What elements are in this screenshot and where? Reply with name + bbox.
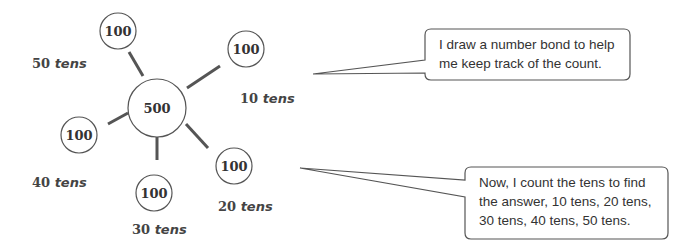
callout-text-1: I draw a number bond to help me keep tra… bbox=[439, 35, 615, 73]
callout-1-line-1: I draw a number bond to help bbox=[439, 35, 615, 54]
label-10-tens-number: 10 bbox=[240, 91, 258, 106]
callout-2-line-1: Now, I count the tens to find bbox=[479, 173, 652, 192]
label-40-tens-unit: tens bbox=[55, 175, 87, 190]
label-50-tens-number: 50 bbox=[32, 56, 50, 71]
bond-line-left bbox=[108, 113, 128, 124]
label-40-tens: 40 tens bbox=[32, 175, 87, 190]
part-value-top-right: 100 bbox=[232, 42, 259, 57]
label-20-tens-unit: tens bbox=[241, 199, 273, 214]
part-value-top: 100 bbox=[104, 24, 131, 39]
label-30-tens: 30 tens bbox=[132, 222, 187, 237]
label-50-tens-unit: tens bbox=[55, 56, 87, 71]
part-value-bottom: 100 bbox=[140, 186, 167, 201]
bond-line-top-right bbox=[187, 66, 220, 88]
label-20-tens: 20 tens bbox=[218, 199, 273, 214]
callout-2-line-3: 30 tens, 40 tens, 50 tens. bbox=[479, 211, 652, 230]
label-10-tens: 10 tens bbox=[240, 91, 295, 106]
part-value-left: 100 bbox=[65, 128, 92, 143]
label-30-tens-number: 30 bbox=[132, 222, 150, 237]
bond-line-bottom-right bbox=[186, 124, 208, 148]
whole-value: 500 bbox=[143, 101, 170, 116]
label-40-tens-number: 40 bbox=[32, 175, 50, 190]
label-10-tens-unit: tens bbox=[263, 91, 295, 106]
part-value-bottom-right: 100 bbox=[220, 159, 247, 174]
callout-2-line-2: the answer, 10 tens, 20 tens, bbox=[479, 192, 652, 211]
bond-line-top bbox=[129, 52, 143, 76]
callout-text-2: Now, I count the tens to find the answer… bbox=[479, 173, 652, 230]
callout-1-line-2: me keep track of the count. bbox=[439, 54, 615, 73]
label-30-tens-unit: tens bbox=[155, 222, 187, 237]
label-20-tens-number: 20 bbox=[218, 199, 236, 214]
label-50-tens: 50 tens bbox=[32, 56, 87, 71]
